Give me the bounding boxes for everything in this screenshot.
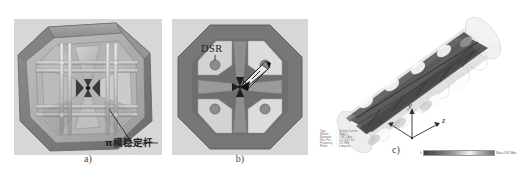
colorbar-max-label: Max=1397 A/m — [496, 151, 516, 155]
panel-b-drawing — [170, 17, 310, 157]
axis-label-z: z — [442, 115, 445, 125]
info-row: Phase : 0 degrees — [320, 146, 357, 149]
axis-label-y: y — [408, 100, 412, 110]
simulation-info-block: Type : Surface Current Monitor : Mode 1 … — [320, 131, 357, 148]
panel-c-caption: c) — [376, 144, 416, 155]
colorbar-min-label: 0 — [420, 151, 422, 155]
panel-b-cross-section: DSR h b) — [170, 17, 310, 157]
axis-label-x: x — [379, 115, 383, 125]
info-value: 0 degrees — [339, 146, 351, 149]
panel-a-rfq-cutaway: π模稳定杆 a) — [12, 17, 164, 157]
info-key: Phase — [320, 146, 336, 149]
dsr-rod-top-left — [210, 60, 220, 70]
h-dimension-label: h — [242, 78, 247, 88]
panel-b-caption: b) — [220, 153, 260, 164]
dsr-label: DSR — [201, 43, 223, 54]
figure-root: π模稳定杆 a) — [0, 0, 531, 192]
panel-a-caption: a) — [68, 153, 108, 164]
dsr-rod-bottom-right — [260, 104, 270, 114]
colorbar-gradient — [423, 150, 495, 156]
page-top-artifact — [0, 0, 531, 9]
colorbar: 0 Max=1397 A/m — [420, 150, 516, 156]
dsr-rod-bottom-left — [210, 104, 220, 114]
pi-mode-stabilizer-label: π模稳定杆 — [105, 135, 153, 149]
panel-c-surface-current-3d: y x z Type : Surface Current Monitor : M… — [316, 14, 529, 162]
